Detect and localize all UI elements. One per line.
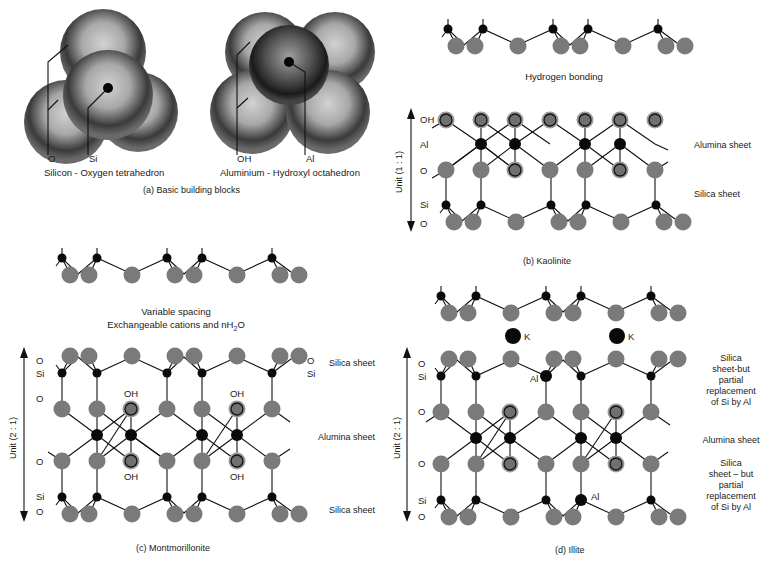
- illite-upper-chain: [435, 286, 687, 322]
- k-label: K: [628, 331, 635, 342]
- right-label-o: O: [307, 355, 314, 366]
- alumina-sheet-label: Alumina sheet: [694, 140, 752, 150]
- montmorillonite-bottom-silica: [56, 493, 308, 523]
- octahedron-spheres: [210, 12, 375, 155]
- label-o: O: [48, 153, 55, 164]
- panel-a-building-blocks: O Si Silicon - Oxygen tetrahedron OH Al …: [24, 9, 375, 195]
- montmorillonite-unit-arrow: [20, 347, 28, 522]
- row-label-si: Si: [36, 491, 44, 502]
- svg-text:partial: partial: [719, 480, 744, 490]
- row-label-oh: OH: [420, 114, 434, 125]
- row-label-o: O: [418, 511, 425, 522]
- al-substitution-atom: [575, 494, 587, 506]
- oh-label: OH: [230, 388, 244, 399]
- illite-bottom-sheet-label: Silica sheet – but partial replacement o…: [706, 458, 756, 512]
- row-label-al: Al: [420, 139, 428, 150]
- svg-text:sheet – but: sheet – but: [709, 469, 754, 479]
- al-label: Al: [530, 373, 538, 384]
- panel-b-caption: (b) Kaolinite: [523, 256, 571, 266]
- row-label-si: Si: [418, 371, 426, 382]
- label-al: Al: [306, 153, 314, 164]
- al-label: Al: [591, 491, 599, 502]
- montmorillonite-upper-chain: [56, 248, 308, 284]
- panel-d-illite: K K Unit (2 : 1) O Si O O Si O Al: [392, 286, 760, 555]
- row-label-o: O: [420, 165, 427, 176]
- row-label-o: O: [36, 355, 43, 366]
- montmorillonite-atoms: [54, 401, 281, 470]
- row-label-o: O: [418, 458, 425, 469]
- illite-top-silica: [435, 351, 687, 381]
- panel-b-kaolinite: Hydrogen bonding Unit (1 : 1) OH Al O Si…: [394, 19, 752, 266]
- panel-d-caption: (d) Illite: [555, 545, 585, 555]
- illite-bottom-silica: [435, 496, 687, 526]
- row-label-o: O: [36, 393, 43, 404]
- variable-spacing-label: Variable spacing: [141, 306, 211, 317]
- montmorillonite-top-silica: [56, 348, 308, 378]
- oh-label: OH: [124, 471, 138, 482]
- alumina-sheet-label: Alumina sheet: [318, 432, 376, 442]
- tetrahedron-spheres: [24, 9, 178, 164]
- silica-sheet-label: Silica sheet: [694, 189, 741, 199]
- row-label-si: Si: [36, 368, 44, 379]
- svg-text:replacement: replacement: [706, 491, 756, 501]
- octahedron-title: Aluminium - Hydroxyl octahedron: [220, 167, 360, 178]
- label-si: Si: [89, 153, 97, 164]
- illite-atoms: [433, 404, 660, 473]
- silica-sheet-label: Silica sheet: [329, 358, 376, 368]
- row-label-si: Si: [420, 199, 428, 210]
- montmorillonite-unit-label: Unit (2 : 1): [8, 417, 18, 459]
- k-label: K: [524, 331, 531, 342]
- potassium-ion: [609, 328, 625, 344]
- illite-bonds: [426, 376, 670, 500]
- panel-a-caption: (a) Basic building blocks: [143, 185, 241, 195]
- illite-top-sheet-label: Silica sheet-but partial replacement of …: [706, 353, 756, 407]
- row-label-o: O: [36, 456, 43, 467]
- silica-sheet-label: Silica sheet: [329, 505, 376, 515]
- potassium-ion: [505, 328, 521, 344]
- row-label-o-bottom: O: [420, 218, 427, 229]
- kaolinite-upper-silica-chain: [442, 19, 694, 55]
- svg-text:replacement: replacement: [706, 386, 756, 396]
- montmorillonite-bonds: [48, 373, 290, 497]
- row-label-si: Si: [418, 495, 426, 506]
- illite-unit-arrow: [403, 347, 411, 522]
- tetrahedron-title: Silicon - Oxygen tetrahedron: [44, 167, 164, 178]
- oh-label: OH: [230, 471, 244, 482]
- svg-text:sheet-but: sheet-but: [712, 364, 750, 374]
- svg-text:of Si by Al: of Si by Al: [711, 502, 751, 512]
- exchangeable-cations-label: Exchangeable cations and nH2O: [107, 319, 245, 332]
- svg-text:Silica: Silica: [720, 353, 742, 363]
- illite-unit-label: Unit (2 : 1): [392, 417, 402, 459]
- kaolinite-unit-label: Unit (1 : 1): [394, 151, 404, 193]
- kaolinite-unit-arrow: [407, 108, 415, 232]
- row-label-o: O: [418, 406, 425, 417]
- oh-label: OH: [124, 388, 138, 399]
- kaolinite-lower-silica-chain: [440, 201, 692, 231]
- right-label-si: Si: [307, 368, 315, 379]
- alumina-sheet-label: Alumina sheet: [702, 435, 760, 445]
- row-label-o: O: [418, 358, 425, 369]
- kaolinite-atoms: [438, 112, 664, 179]
- panel-c-caption: (c) Montmorillonite: [136, 543, 210, 553]
- clay-minerals-diagram: O Si Silicon - Oxygen tetrahedron OH Al …: [0, 0, 766, 578]
- row-label-o: O: [36, 506, 43, 517]
- svg-text:of Si by Al: of Si by Al: [711, 397, 751, 407]
- svg-text:Silica: Silica: [720, 458, 742, 468]
- svg-text:partial: partial: [719, 375, 744, 385]
- hydrogen-bonding-label: Hydrogen bonding: [525, 71, 603, 82]
- label-oh: OH: [237, 153, 251, 164]
- panel-c-montmorillonite: Variable spacing Exchangeable cations an…: [8, 248, 376, 553]
